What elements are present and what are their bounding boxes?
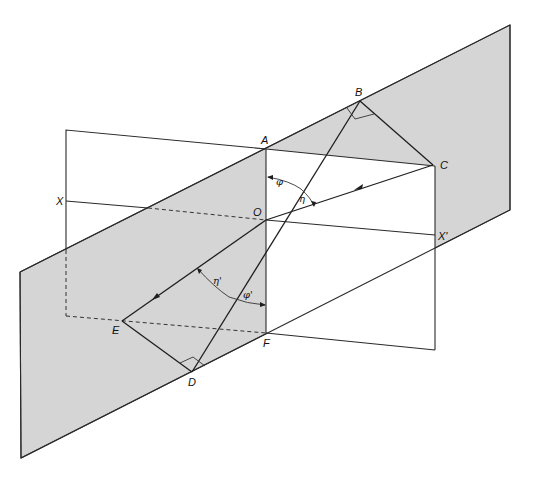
label-phi: φ — [276, 176, 283, 187]
white-plane-right-part — [266, 149, 435, 350]
label-E: E — [112, 324, 120, 336]
label-X: X — [55, 195, 64, 207]
label-O: O — [253, 206, 262, 218]
label-D: D — [188, 376, 196, 388]
label-C: C — [440, 159, 448, 171]
label-phi-prime: φ' — [243, 289, 253, 300]
label-A: A — [260, 134, 268, 146]
label-X-prime: X' — [437, 230, 448, 242]
reflection-geometry-diagram: A B C O X X' E D F φ η η' φ' — [0, 0, 536, 478]
axis-X-visible — [66, 201, 148, 208]
gray-plane — [20, 25, 510, 458]
label-eta-prime: η' — [213, 275, 222, 286]
label-F: F — [263, 337, 271, 349]
label-B: B — [355, 86, 362, 98]
label-eta: η — [299, 193, 305, 204]
